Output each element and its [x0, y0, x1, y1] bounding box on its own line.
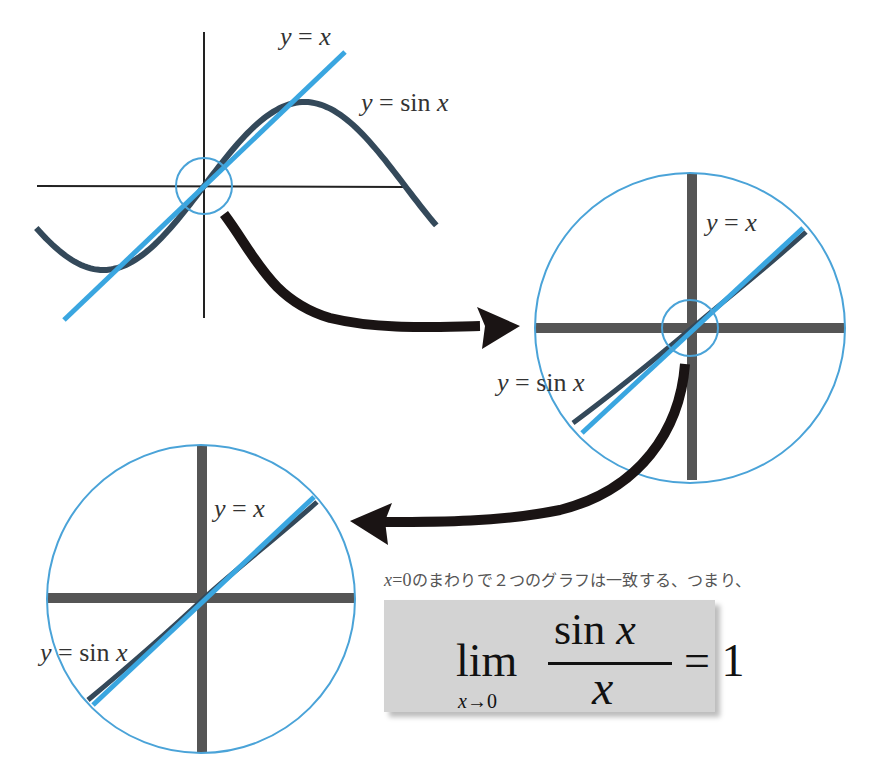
zoom1-label-y-eq-x: y = x	[703, 208, 757, 237]
zoom-panel-2: y = x y = sin x	[37, 440, 362, 760]
arrow-1-head	[477, 307, 520, 349]
zoom2-label-y-eq-sinx: y = sin x	[37, 638, 128, 667]
formula-denominator: x	[592, 664, 613, 712]
formula-lim-subscript: x→0	[458, 690, 497, 713]
limit-formula-box: lim x→0 sin x x = 1	[384, 600, 715, 712]
formula-numerator: sin x	[554, 608, 636, 652]
overview-label-y-eq-x: y = x	[277, 22, 331, 51]
overview-x-axis	[37, 186, 406, 187]
caption-body: のまわりで２つのグラフは一致する、つまり、	[412, 571, 751, 590]
zoom-arrow-1	[224, 214, 520, 349]
zoom1-label-y-eq-sinx: y = sin x	[494, 368, 585, 397]
formula-lim: lim	[456, 638, 517, 684]
zoom2-label-y-eq-x: y = x	[211, 494, 265, 523]
zoom-panel-1: y = x y = sin x	[494, 170, 850, 483]
arrow-1-shaft	[224, 214, 480, 327]
formula-rhs: = 1	[684, 638, 744, 684]
caption-eq: =	[392, 570, 402, 590]
caption-text: x=0のまわりで２つのグラフは一致する、つまり、	[384, 567, 751, 591]
caption-zero: 0	[403, 570, 412, 590]
caption-var: x	[384, 570, 392, 590]
overview-graph: y = x y = sin x	[36, 22, 449, 320]
overview-label-y-eq-sinx: y = sin x	[358, 88, 449, 117]
